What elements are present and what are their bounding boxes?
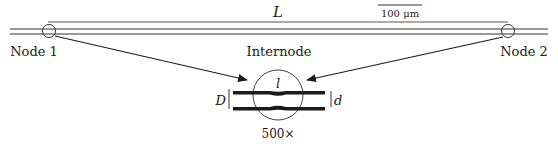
node-gap-label: l <box>276 76 280 91</box>
inner-diameter-label: d <box>334 93 342 108</box>
node-2-label: Node 2 <box>500 44 548 59</box>
length-label: L <box>272 3 283 21</box>
internode-label: Internode <box>247 44 312 59</box>
axon-diagram: L 100 μm Node 1 Internode Node 2 l D d 5… <box>0 0 558 147</box>
zoom-arrow-right <box>307 37 503 80</box>
outer-diameter-label: D <box>215 93 227 108</box>
axon-fiber <box>10 29 548 34</box>
upper-myelin-sheath <box>233 91 325 96</box>
node-2-marker <box>502 25 515 38</box>
zoom-arrow-left <box>55 36 247 80</box>
magnification-label: 500× <box>262 127 295 141</box>
node-1-marker <box>43 25 56 38</box>
scale-bar-label: 100 μm <box>381 8 420 19</box>
node-1-label: Node 1 <box>10 44 58 59</box>
lower-myelin-sheath <box>233 106 325 111</box>
